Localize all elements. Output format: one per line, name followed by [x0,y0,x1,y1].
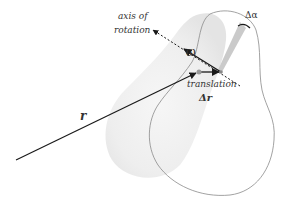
axis-of-rotation-label-line2: rotation [114,25,151,35]
r-vector-label: r [80,109,88,123]
translation-label: translation [187,79,237,89]
axis-of-rotation-label-line1: axis of [118,11,149,21]
omega-label: ω [186,45,196,59]
rigid-body-motion-diagram: axis of rotation ω Δα translation Δr r [0,0,285,204]
reference-point-dot [197,70,202,75]
pivot-point-dot [219,70,223,74]
delta-alpha-label: Δα [245,10,258,20]
delta-r-label: Δr [198,92,213,103]
